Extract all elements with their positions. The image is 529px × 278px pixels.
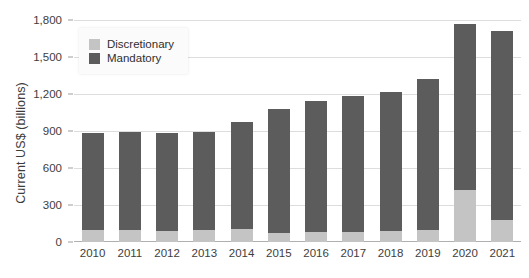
y-tick-mark <box>68 57 73 58</box>
bar-segment-mandatory[interactable] <box>156 133 178 230</box>
bar-segment-mandatory[interactable] <box>342 96 364 232</box>
bar-group[interactable] <box>380 92 402 242</box>
y-tick-label: 600 <box>0 162 62 174</box>
y-tick-label: 900 <box>0 125 62 137</box>
bar-segment-discretionary[interactable] <box>193 230 215 242</box>
bar-segment-mandatory[interactable] <box>380 92 402 231</box>
bar-segment-mandatory[interactable] <box>454 24 476 191</box>
bar-segment-discretionary[interactable] <box>231 229 253 242</box>
bar-group[interactable] <box>342 96 364 242</box>
bar-segment-mandatory[interactable] <box>417 79 439 230</box>
bar-segment-mandatory[interactable] <box>268 109 290 232</box>
stacked-bar-chart: Current US$ (billions) 03006009001,2001,… <box>0 0 529 278</box>
x-tick-label: 2021 <box>480 247 524 259</box>
bar-segment-discretionary[interactable] <box>268 233 290 242</box>
chart-legend: DiscretionaryMandatory <box>79 28 188 74</box>
y-tick-label: 1,500 <box>0 51 62 63</box>
bar-group[interactable] <box>119 132 141 242</box>
y-tick-label: 300 <box>0 199 62 211</box>
y-tick-mark <box>68 242 73 243</box>
bar-group[interactable] <box>231 122 253 242</box>
bar-segment-mandatory[interactable] <box>82 133 104 230</box>
y-tick-mark <box>68 94 73 95</box>
legend-label: Mandatory <box>107 52 161 64</box>
bar-group[interactable] <box>491 30 513 242</box>
bar-segment-mandatory[interactable] <box>491 31 513 221</box>
bar-group[interactable] <box>193 132 215 242</box>
legend-item[interactable]: Discretionary <box>89 38 174 50</box>
bar-segment-discretionary[interactable] <box>156 231 178 242</box>
bar-group[interactable] <box>156 133 178 242</box>
y-tick-mark <box>68 131 73 132</box>
bar-segment-discretionary[interactable] <box>119 230 141 242</box>
y-tick-label: 1,800 <box>0 14 62 26</box>
bar-segment-discretionary[interactable] <box>380 231 402 242</box>
y-axis-title: Current US$ (billions) <box>14 48 28 238</box>
bar-segment-discretionary[interactable] <box>454 190 476 242</box>
bar-group[interactable] <box>82 133 104 242</box>
bar-segment-discretionary[interactable] <box>417 230 439 242</box>
y-tick-label: 0 <box>0 236 62 248</box>
legend-swatch-icon <box>89 53 100 64</box>
bar-group[interactable] <box>454 24 476 242</box>
y-tick-mark <box>68 205 73 206</box>
bar-segment-mandatory[interactable] <box>193 132 215 230</box>
y-tick-mark <box>68 168 73 169</box>
bar-segment-discretionary[interactable] <box>82 230 104 242</box>
bar-segment-mandatory[interactable] <box>305 101 327 232</box>
x-axis-labels: 2010201120122013201420152016201720182019… <box>74 247 521 269</box>
bar-segment-discretionary[interactable] <box>342 232 364 242</box>
bar-segment-discretionary[interactable] <box>491 220 513 242</box>
bar-group[interactable] <box>268 109 290 242</box>
legend-swatch-icon <box>89 39 100 50</box>
y-tick-label: 1,200 <box>0 88 62 100</box>
bar-segment-discretionary[interactable] <box>305 232 327 242</box>
legend-label: Discretionary <box>107 38 174 50</box>
bar-segment-mandatory[interactable] <box>231 122 253 229</box>
bar-group[interactable] <box>305 101 327 242</box>
bar-group[interactable] <box>417 79 439 242</box>
legend-item[interactable]: Mandatory <box>89 52 174 64</box>
bar-segment-mandatory[interactable] <box>119 132 141 230</box>
y-tick-mark <box>68 20 73 21</box>
